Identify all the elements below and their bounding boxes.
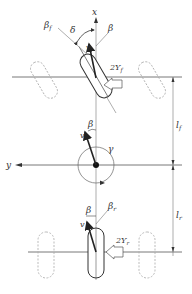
beta-r-label: βr bbox=[107, 201, 117, 212]
rear-right-ghost-wheel bbox=[139, 232, 155, 278]
y-axis-label: y bbox=[5, 160, 12, 170]
dim-arrow-lf-bottom-icon bbox=[172, 160, 175, 165]
vehicle-model-diagram: x y lf lr v δ βf β 2Yf v β γ v β bbox=[0, 0, 192, 294]
lr-label: lr bbox=[176, 210, 183, 221]
front-force-label: 2Yf bbox=[109, 63, 123, 74]
front-wheel bbox=[72, 43, 115, 101]
delta-label: δ bbox=[70, 25, 75, 35]
rear-left-ghost-wheel bbox=[38, 232, 54, 278]
rear-velocity-label: v bbox=[80, 220, 85, 229]
beta-f-label: βf bbox=[43, 20, 53, 32]
dim-arrow-lr-bottom-icon bbox=[172, 247, 175, 252]
cg-velocity-arrow bbox=[85, 132, 96, 165]
rear-beta-label: β bbox=[85, 205, 91, 215]
x-axis-label: x bbox=[92, 7, 97, 17]
front-wheel-heading-line bbox=[106, 96, 116, 113]
gamma-label: γ bbox=[108, 144, 114, 154]
lf-label: lf bbox=[176, 120, 183, 132]
x-axis-arrow-icon bbox=[94, 17, 98, 23]
dim-arrow-lr-top-icon bbox=[172, 165, 175, 170]
front-left-ghost-wheel bbox=[28, 59, 60, 101]
front-right-ghost-wheel bbox=[136, 59, 168, 101]
rear-force-label: 2Yr bbox=[115, 236, 129, 246]
front-beta-ref-line bbox=[96, 33, 108, 46]
cg-beta-label: β bbox=[87, 119, 93, 129]
beta-front-label: β bbox=[107, 23, 113, 33]
delta-arc bbox=[77, 30, 94, 42]
cg-velocity-label: v bbox=[80, 131, 85, 140]
rear-slip-ref-line bbox=[96, 210, 108, 224]
y-axis-arrow-icon bbox=[15, 163, 22, 167]
front-velocity-label: v bbox=[86, 43, 91, 52]
dim-arrow-lf-top-icon bbox=[172, 77, 175, 82]
cg-beta-arc bbox=[88, 129, 96, 131]
diagram-canvas: x y lf lr v δ βf β 2Yf v β γ v β bbox=[0, 0, 192, 294]
rear-force-arrow bbox=[106, 245, 123, 259]
